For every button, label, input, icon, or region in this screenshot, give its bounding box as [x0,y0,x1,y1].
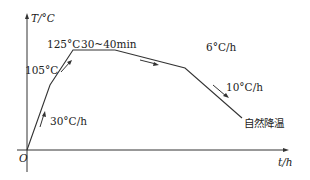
temp-125-label: 125°C [47,39,80,50]
origin-label: O [19,153,28,164]
x-axis-arrow-icon [283,148,289,152]
y-axis-arrow-icon [25,13,29,19]
y-axis [25,13,29,172]
x-axis-label: t/h [278,157,293,168]
diagram-graphics [0,0,310,180]
heating-rate-label: 30°C/h [50,116,87,127]
temperature-curve [27,50,242,150]
cooling-rate-1-label: 6°C/h [206,42,236,53]
temperature-profile-diagram: T/°C 125°C 30~40min 105°C 30°C/h 6°C/h 1… [0,0,310,180]
y-axis-label: T/°C [31,13,55,24]
x-axis [17,148,289,152]
natural-cooling-label: 自然降温 [244,118,284,129]
cooling-rate-2-label: 10°C/h [226,82,263,93]
temp-105-label: 105°C [25,65,58,76]
hold-time-label: 30~40min [81,39,137,50]
heating-arrow-icon [40,111,46,127]
